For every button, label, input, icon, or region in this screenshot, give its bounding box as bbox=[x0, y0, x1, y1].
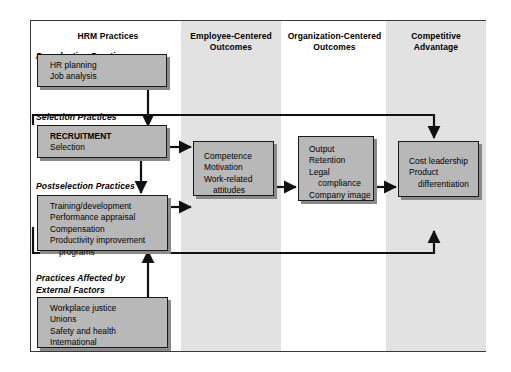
box-selection-practices[interactable]: RECRUITMENT Selection bbox=[37, 125, 167, 158]
organization-outcome-3: compliance bbox=[309, 178, 367, 189]
organization-outcome-2: Legal bbox=[309, 167, 367, 178]
postselection-item-2: Compensation bbox=[50, 224, 161, 235]
selection-heading: RECRUITMENT bbox=[50, 131, 160, 142]
employee-outcome-1: Motivation bbox=[204, 162, 267, 173]
postselection-item-1: Performance appraisal bbox=[50, 212, 161, 223]
section-label-external-line2: External Factors bbox=[36, 285, 105, 296]
box-preselection-practices[interactable]: HR planning Job analysis bbox=[37, 54, 167, 87]
competitive-item-1: Product bbox=[409, 167, 472, 178]
external-item-3: International bbox=[50, 337, 161, 348]
employee-outcome-3: attitudes bbox=[204, 185, 267, 196]
postselection-item-3: Productivity improvement bbox=[50, 235, 161, 246]
column-header-organization-line1: Organization-Centered bbox=[288, 31, 382, 41]
preselection-item-0: HR planning bbox=[50, 60, 160, 71]
employee-outcome-0: Competence bbox=[204, 151, 267, 162]
organization-outcome-1: Retention bbox=[309, 155, 367, 166]
column-header-organization: Organization-Centered Outcomes bbox=[283, 31, 386, 53]
box-postselection-practices[interactable]: Training/development Performance apprais… bbox=[37, 195, 168, 251]
column-header-employee: Employee-Centered Outcomes bbox=[181, 31, 281, 53]
box-external-factors-practices[interactable]: Workplace justice Unions Safety and heal… bbox=[37, 297, 168, 348]
postselection-item-4: programs bbox=[50, 247, 161, 258]
preselection-item-1: Job analysis bbox=[50, 71, 160, 82]
column-header-organization-line2: Outcomes bbox=[313, 42, 355, 52]
box-competitive-advantage[interactable]: Cost leadership Product differentiation bbox=[398, 141, 479, 197]
column-header-employee-line1: Employee-Centered bbox=[190, 31, 272, 41]
column-header-competitive-line1: Competitive bbox=[411, 31, 461, 41]
competitive-item-2: differentiation bbox=[409, 179, 472, 190]
column-header-hrm-line1: HRM Practices bbox=[78, 31, 139, 41]
column-header-hrm: HRM Practices bbox=[35, 31, 181, 42]
section-label-selection: Selection Practices bbox=[36, 112, 117, 123]
employee-outcome-2: Work-related bbox=[204, 174, 267, 185]
organization-outcome-0: Output bbox=[309, 144, 367, 155]
box-employee-centered-outcomes[interactable]: Competence Motivation Work-related attit… bbox=[193, 141, 274, 196]
column-header-employee-line2: Outcomes bbox=[210, 42, 252, 52]
organization-outcome-4: Company image bbox=[309, 190, 367, 201]
column-header-competitive: Competitive Advantage bbox=[386, 31, 486, 53]
section-label-postselection: Postselection Practices bbox=[36, 181, 135, 192]
external-item-1: Unions bbox=[50, 314, 161, 325]
diagram-frame: HRM Practices Employee-Centered Outcomes… bbox=[30, 20, 486, 352]
selection-item-0: Selection bbox=[50, 142, 160, 153]
external-item-0: Workplace justice bbox=[50, 303, 161, 314]
external-item-2: Safety and health bbox=[50, 326, 161, 337]
postselection-item-0: Training/development bbox=[50, 201, 161, 212]
column-header-competitive-line2: Advantage bbox=[414, 42, 458, 52]
box-organization-centered-outcomes[interactable]: Output Retention Legal compliance Compan… bbox=[298, 136, 374, 201]
competitive-item-0: Cost leadership bbox=[409, 156, 472, 167]
section-label-external-line1: Practices Affected by bbox=[36, 273, 125, 284]
